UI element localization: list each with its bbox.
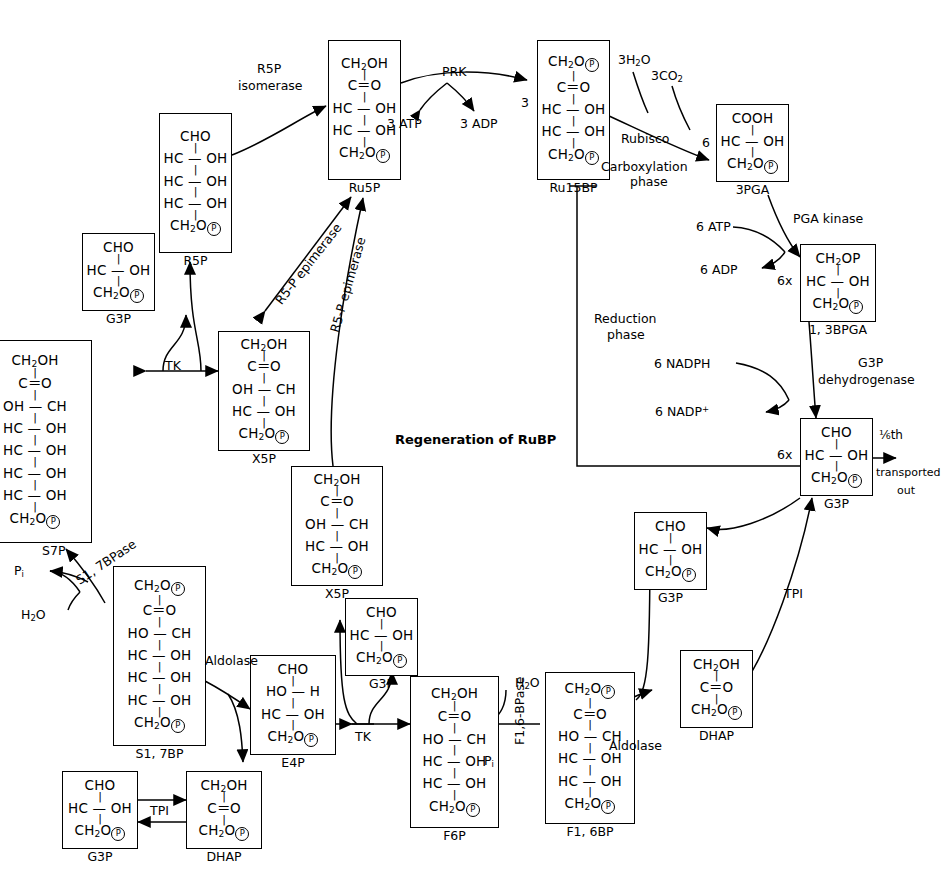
molecule-box-s7p[interactable]: CH2OH | C＝O | OH — CH | HC — OH | HC — O…	[0, 340, 92, 543]
enzyme-label-pga-kinase: PGA kinase	[793, 211, 863, 226]
mol-row: CH2OP	[727, 157, 778, 174]
molecule-label-f6p: F6P	[410, 828, 499, 843]
molecule-label-r5p: R5P	[159, 253, 232, 268]
molecule-box-r5p[interactable]: CHO | HC — OH | HC — OH | HC — OH | CH2O…	[159, 113, 232, 253]
phase-label-regeneration: Regeneration of RuBP	[395, 432, 556, 447]
enzyme-label-r5p-epimerase-a: R5-P epimerase	[272, 220, 345, 307]
mol-row: CH2OP	[268, 730, 319, 747]
enzyme-label-r5p-isomerase-l1: R5P	[257, 61, 281, 76]
phase-label-carboxylation-l2: phase	[630, 174, 668, 189]
enzyme-label-rubisco: Rubisco	[621, 131, 670, 146]
cofactor-atp-3: 3 ATP	[387, 116, 422, 131]
stoich-6x-g3p: 6x	[777, 447, 792, 462]
phase-label-reduction-l2: phase	[607, 327, 645, 342]
molecule-label-s7p: S7P	[42, 543, 65, 558]
molecule-label-dhap-bottomleft: DHAP	[186, 849, 262, 864]
export-line1: transported	[876, 466, 941, 479]
molecule-label-g3p-rightmid: G3P	[634, 590, 707, 605]
mol-row: CH2OP	[75, 824, 126, 841]
molecule-label-3pga: 3PGA	[716, 182, 789, 197]
molecule-box-x5p-mid[interactable]: CH2OH | C＝O | OH — CH | HC — OH | CH2OP	[291, 466, 383, 586]
mol-row: CH2OP	[811, 471, 862, 488]
molecule-label-g3p-bottomleft: G3P	[62, 849, 138, 864]
mol-row: CH2OP	[429, 800, 480, 817]
cofactor-adp-3: 3 ADP	[460, 116, 498, 131]
mol-row: CH2OP	[691, 703, 742, 720]
mol-row: CH2OP	[565, 797, 616, 814]
cofactor-pi-left: Pi	[14, 563, 24, 579]
molecule-box-ru5p[interactable]: CH2OH | C＝O | HC — OH | HC — OH | CH2OP	[328, 40, 401, 180]
mol-row: CH2OP	[548, 148, 599, 165]
cofactor-nadph-6: 6 NADPH	[654, 356, 710, 371]
calvin-cycle-diagram: CH2OH | C＝O | HC — OH | HC — OH | CH2OP …	[0, 0, 945, 886]
enzyme-label-g3p-dehydrogenase-l1: G3P	[858, 355, 883, 370]
molecule-label-g3p-topleft: G3P	[82, 311, 155, 326]
mol-row: CH2OP	[199, 824, 250, 841]
mol-row: CH2OP	[312, 562, 363, 579]
mol-row: CH2OP	[339, 146, 390, 163]
molecule-box-x5p-upper[interactable]: CH2OH | C＝O | OH — CH | HC — OH | CH2OP	[218, 331, 310, 451]
enzyme-label-tk-lower: TK	[355, 729, 371, 744]
enzyme-label-g3p-dehydrogenase-l2: dehydrogenase	[818, 372, 915, 387]
molecule-label-g3p-right: G3P	[800, 496, 873, 511]
molecule-label-e4p: E4P	[250, 755, 336, 770]
mol-row: CH2OP	[10, 512, 61, 529]
molecule-box-g3p-topleft[interactable]: CHO | HC — OH | CH2OP	[82, 233, 155, 311]
cofactor-h2o-3: 3H2O	[618, 52, 651, 68]
molecule-box-g3p-bottomleft[interactable]: CHO | HC — OH | CH2OP	[62, 771, 138, 849]
export-line2: out	[897, 484, 915, 497]
molecule-box-g3p-right[interactable]: CHO | HC — OH | CH2OP	[800, 418, 873, 496]
cofactor-nadp-6: 6 NADP+	[655, 404, 709, 419]
mol-row: CH2OP	[170, 219, 221, 236]
enzyme-label-prk: PRK	[442, 64, 466, 79]
cofactor-adp-6: 6 ADP	[700, 262, 738, 277]
molecule-box-g3p-lowmid[interactable]: CHO | HC — OH | CH2OP	[345, 598, 418, 676]
cofactor-h2o-left: H2O	[21, 607, 46, 623]
mol-row: CH2OP	[239, 427, 290, 444]
mol-row: CH2OP	[93, 286, 144, 303]
molecule-label-g3p-lowmid: G3P	[345, 676, 418, 691]
molecule-box-e4p[interactable]: CHO | HO — H | HC — OH | CH2OP	[250, 655, 336, 755]
enzyme-label-aldolase-right: Aldolase	[609, 738, 662, 753]
molecule-box-3pga[interactable]: COOH | HC — OH | CH2OP	[716, 104, 789, 182]
phase-label-reduction-l1: Reduction	[594, 311, 657, 326]
export-fraction-label: ⅙th	[879, 428, 903, 442]
cofactor-co2-3: 3CO2	[651, 68, 683, 84]
mol-row: CH2OP	[134, 716, 185, 733]
mol-row: CH2OP	[356, 651, 407, 668]
cofactor-pi-right: Pi	[484, 753, 494, 769]
molecule-box-ru15bp[interactable]: CH2OP | C＝O | HC — OH | HC — OH | CH2OP	[537, 40, 610, 180]
enzyme-label-r5p-epimerase-b: R5-P epimerase	[327, 235, 369, 334]
enzyme-label-aldolase-left: Aldolase	[205, 653, 258, 668]
enzyme-label-tpi-right: TPI	[784, 586, 803, 601]
molecule-box-13bpga[interactable]: CH2OP | HC — OH | CH2OP	[800, 244, 876, 322]
stoich-3-ru15bp: 3	[521, 95, 529, 110]
molecule-label-f16bp: F1, 6BP	[545, 824, 635, 839]
enzyme-label-tk-upper: TK	[165, 358, 181, 373]
phase-label-carboxylation-l1: Carboxylation	[601, 159, 688, 174]
mol-row: CH2OP	[813, 297, 864, 314]
molecule-box-f6p[interactable]: CH2OH | C＝O | HO — CH | HC — OH | HC — O…	[410, 676, 499, 828]
molecule-label-x5p-upper: X5P	[218, 451, 310, 466]
molecule-box-g3p-rightmid[interactable]: CHO | HC — OH | CH2OP	[634, 512, 707, 590]
enzyme-label-r5p-isomerase-l2: isomerase	[238, 78, 303, 93]
molecule-label-ru5p: Ru5P	[328, 180, 401, 195]
molecule-box-dhap-right[interactable]: CH2OH | C＝O | CH2OP	[680, 650, 753, 728]
cofactor-atp-6: 6 ATP	[696, 219, 731, 234]
molecule-label-s17bp: S1, 7BP	[113, 746, 206, 761]
molecule-label-dhap-right: DHAP	[680, 728, 753, 743]
enzyme-label-tpi-bottom: TPI	[150, 803, 169, 818]
molecule-label-ru15bp: Ru15BP	[537, 180, 610, 195]
molecule-box-s17bp[interactable]: CH2OP | C＝O | HO — CH | HC — OH | HC — O…	[113, 566, 206, 746]
stoich-6x-13bpga: 6x	[777, 273, 792, 288]
molecule-label-13bpga: 1, 3BPGA	[800, 322, 876, 337]
molecule-box-dhap-bottomleft[interactable]: CH2OH | C＝O | CH2OP	[186, 771, 262, 849]
cofactor-h2o-right: H2O	[515, 675, 540, 691]
stoich-6-3pga: 6	[702, 135, 710, 150]
mol-row: CH2OP	[645, 565, 696, 582]
